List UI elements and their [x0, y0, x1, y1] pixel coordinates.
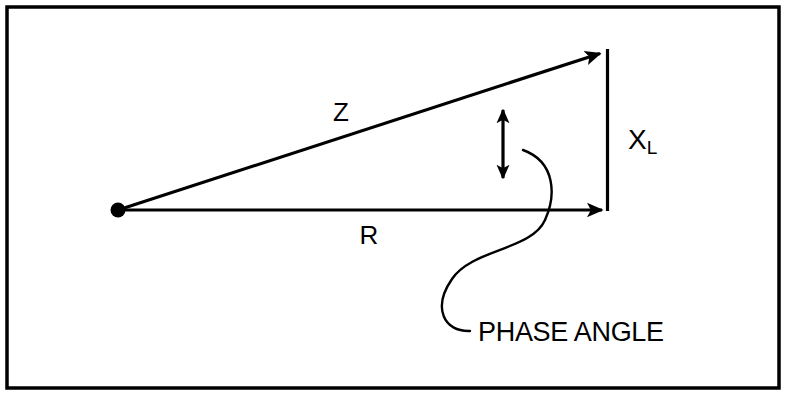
vector-z-line — [118, 53, 600, 210]
vector-label-xl-subscript: L — [647, 137, 658, 158]
origin-point — [111, 203, 126, 218]
diagram-canvas: Z R XL PHASE ANGLE — [0, 0, 792, 403]
vector-label-z: Z — [333, 97, 349, 127]
vector-label-r: R — [360, 220, 379, 250]
impedance-triangle-diagram: Z R XL PHASE ANGLE — [0, 0, 792, 403]
annotation-phase-angle: PHASE ANGLE — [478, 317, 664, 347]
vector-label-xl-main: X — [628, 124, 647, 155]
vector-label-xl: XL — [628, 124, 657, 158]
phase-angle-leader-curve — [442, 150, 552, 331]
